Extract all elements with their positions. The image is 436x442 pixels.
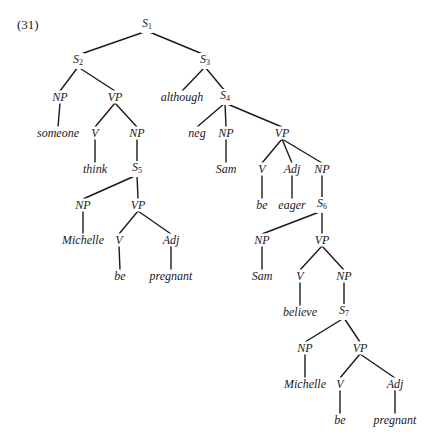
tree-edge [262, 139, 282, 163]
tree-node-believe: believe [282, 306, 318, 319]
tree-edge [344, 318, 360, 342]
tree-node-np3: NP [217, 127, 234, 140]
tree-node-s1: S1 [141, 17, 153, 33]
tree-edge [182, 67, 205, 91]
tree-node-vp2: VP [274, 127, 291, 140]
tree-node-s6: S6 [316, 197, 328, 213]
node-subscript: 2 [79, 58, 83, 67]
tree-node-adj1: Adj [283, 163, 302, 176]
tree-node-v3: V [114, 234, 123, 247]
tree-node-np2: NP [128, 127, 145, 140]
node-subscript: 6 [323, 202, 327, 211]
tree-node-neg: neg [187, 127, 206, 140]
tree-edge [282, 139, 322, 163]
tree-edge [60, 67, 78, 91]
tree-edge [95, 103, 115, 127]
tree-edge [340, 354, 360, 378]
tree-node-pregnant2: pregnant [373, 414, 418, 427]
tree-node-think: think [82, 163, 108, 176]
tree-node-although: although [160, 91, 205, 104]
tree-edge [300, 246, 322, 270]
tree-node-michelle2: Michelle [283, 378, 327, 391]
tree-node-np6: NP [253, 234, 270, 247]
tree-node-vp4: VP [314, 234, 331, 247]
tree-node-s7: S7 [338, 304, 350, 320]
tree-edge [197, 103, 225, 127]
tree-node-np5: NP [74, 199, 91, 212]
example-number: (31) [17, 17, 39, 33]
node-subscript: 7 [345, 309, 349, 318]
tree-edge [360, 354, 395, 378]
node-subscript: 4 [226, 94, 230, 103]
tree-node-np1: NP [51, 91, 68, 104]
tree-node-sam2: Sam [251, 270, 274, 283]
tree-node-pregnant1: pregnant [149, 270, 194, 283]
tree-edge [262, 211, 322, 234]
tree-edge [305, 318, 344, 342]
tree-node-michelle1: Michelle [61, 234, 105, 247]
tree-edge [147, 31, 205, 55]
tree-edge [115, 103, 137, 127]
tree-node-be3: be [333, 414, 346, 427]
tree-node-np7: NP [335, 270, 352, 283]
tree-node-v1: V [90, 127, 99, 140]
tree-edge [78, 31, 147, 55]
tree-node-np4: NP [313, 163, 330, 176]
tree-node-be1: be [255, 199, 268, 212]
node-subscript: 1 [148, 22, 152, 31]
tree-node-vp3: VP [130, 199, 147, 212]
tree-node-vp5: VP [352, 342, 369, 355]
tree-edge [137, 175, 138, 199]
tree-node-v2: V [257, 163, 266, 176]
tree-node-s4: S4 [219, 89, 231, 105]
syntax-tree-diagram: (31) S1S2S3NPVPalthoughS4someoneVNPnegNP… [0, 0, 436, 442]
tree-node-s2: S2 [72, 53, 84, 69]
tree-node-be2: be [113, 270, 126, 283]
tree-edge [225, 103, 282, 127]
tree-node-eager: eager [277, 199, 306, 212]
tree-edge [138, 211, 171, 234]
tree-node-someone: someone [36, 127, 80, 140]
tree-edge [119, 211, 138, 234]
node-subscript: 3 [206, 58, 210, 67]
tree-node-s3: S3 [199, 53, 211, 69]
tree-edge [83, 175, 137, 199]
tree-node-v5: V [335, 378, 344, 391]
tree-edge [225, 103, 226, 127]
tree-edge [119, 246, 120, 270]
tree-edge [322, 246, 344, 270]
tree-node-v4: V [295, 270, 304, 283]
node-subscript: 5 [138, 166, 142, 175]
tree-node-np8: NP [296, 342, 313, 355]
tree-node-adj2: Adj [162, 234, 181, 247]
tree-edge [78, 67, 115, 91]
tree-edges [0, 0, 436, 442]
tree-node-s5: S5 [131, 161, 143, 177]
tree-node-sam1: Sam [215, 163, 238, 176]
tree-edge [58, 103, 60, 127]
tree-node-adj3: Adj [386, 378, 405, 391]
tree-node-vp1: VP [107, 91, 124, 104]
